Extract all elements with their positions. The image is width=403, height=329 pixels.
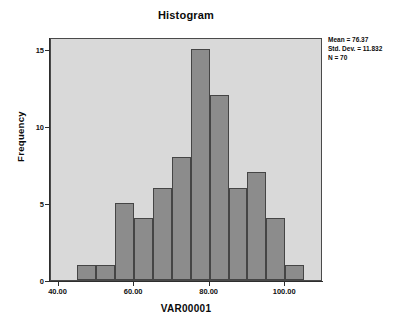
histogram-bar	[172, 157, 191, 280]
x-tick-mark	[133, 282, 134, 286]
histogram-bar	[96, 265, 115, 280]
x-tick-label: 40.00	[35, 287, 81, 296]
chart-title: Histogram	[50, 9, 322, 21]
histogram-bar	[115, 203, 134, 280]
y-tick-mark	[45, 50, 49, 51]
y-tick-mark	[45, 127, 49, 128]
x-tick-mark	[209, 282, 210, 286]
y-axis-title: Frequency	[15, 92, 26, 182]
n-label: N = 70	[328, 54, 400, 63]
statistics-annotation: Mean = 76.37 Std. Dev. = 11.832 N = 70	[328, 36, 400, 63]
x-tick-label: 100.00	[261, 287, 307, 296]
x-tick-label: 60.00	[110, 287, 156, 296]
x-tick-mark	[58, 282, 59, 286]
y-axis-line	[49, 38, 50, 282]
mean-label: Mean = 76.37	[328, 36, 400, 45]
histogram-bar	[285, 265, 304, 280]
x-tick-label: 80.00	[186, 287, 232, 296]
y-tick-label: 0	[4, 277, 44, 286]
histogram-bar	[210, 95, 229, 280]
histogram-chart: Histogram Frequency 051015 40.0060.0080.…	[0, 0, 403, 329]
y-tick-label: 10	[4, 123, 44, 132]
histogram-bar	[134, 218, 153, 280]
bars-layer	[51, 39, 321, 280]
std-dev-label: Std. Dev. = 11.832	[328, 45, 400, 54]
histogram-bar	[247, 172, 266, 280]
x-tick-mark	[284, 282, 285, 286]
x-axis-line	[50, 281, 323, 282]
y-tick-label: 15	[4, 46, 44, 55]
y-tick-label: 5	[4, 200, 44, 209]
x-axis-title: VAR00001	[50, 303, 322, 314]
histogram-bar	[229, 188, 248, 280]
plot-area	[50, 38, 322, 281]
histogram-bar	[191, 49, 210, 280]
y-tick-mark	[45, 281, 49, 282]
histogram-bar	[153, 188, 172, 280]
y-tick-mark	[45, 204, 49, 205]
histogram-bar	[77, 265, 96, 280]
histogram-bar	[266, 218, 285, 280]
